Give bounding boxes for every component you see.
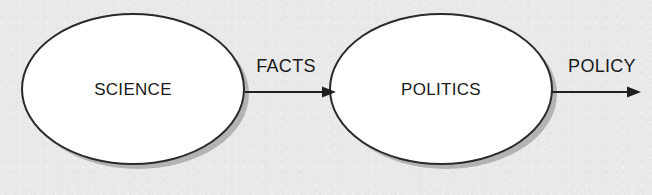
edge-facts[interactable]: FACTS	[245, 56, 336, 98]
node-politics[interactable]: POLITICS	[330, 14, 557, 169]
node-science-label: SCIENCE	[94, 80, 172, 99]
edge-facts-label: FACTS	[256, 56, 316, 76]
edge-policy[interactable]: POLICY	[552, 56, 641, 98]
edge-policy-arrowhead-icon	[627, 87, 641, 98]
node-science[interactable]: SCIENCE	[22, 14, 249, 169]
edge-policy-label: POLICY	[568, 56, 636, 76]
diagram-canvas: SCIENCE POLITICS FACTS POLICY	[0, 0, 652, 195]
node-politics-label: POLITICS	[401, 80, 481, 99]
diagram-svg: SCIENCE POLITICS FACTS POLICY	[0, 0, 652, 195]
